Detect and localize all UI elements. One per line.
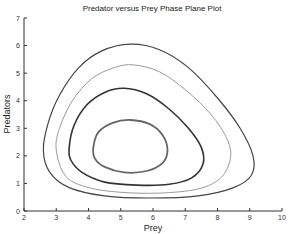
x-tick-label: 6 (151, 214, 155, 221)
x-tick-label: 4 (87, 214, 91, 221)
y-tick-label: 6 (16, 42, 20, 49)
y-tick-label: 4 (16, 97, 20, 104)
chart-title: Predator versus Prey Phase Plane Plot (83, 4, 223, 13)
axes: 234567891001234567 (16, 15, 286, 222)
y-tick-label: 3 (16, 125, 20, 132)
x-tick-label: 10 (278, 214, 286, 221)
x-tick-label: 7 (183, 214, 187, 221)
x-tick-label: 5 (119, 214, 123, 221)
phase-plane-chart: Predator versus Prey Phase Plane Plot 23… (0, 0, 293, 234)
y-tick-label: 0 (16, 208, 20, 215)
x-axis-label: Prey (144, 223, 163, 233)
orbit-curve (93, 120, 167, 173)
plot-area (43, 44, 254, 198)
y-tick-label: 7 (16, 15, 20, 22)
x-tick-label: 3 (54, 214, 58, 221)
y-tick-label: 5 (16, 70, 20, 77)
orbit-curve (69, 88, 204, 185)
x-tick-label: 9 (248, 214, 252, 221)
x-tick-label: 8 (216, 214, 220, 221)
y-axis-label: Predators (2, 94, 12, 134)
x-tick-label: 2 (22, 214, 26, 221)
y-tick-label: 2 (16, 152, 20, 159)
y-tick-label: 1 (16, 180, 20, 187)
